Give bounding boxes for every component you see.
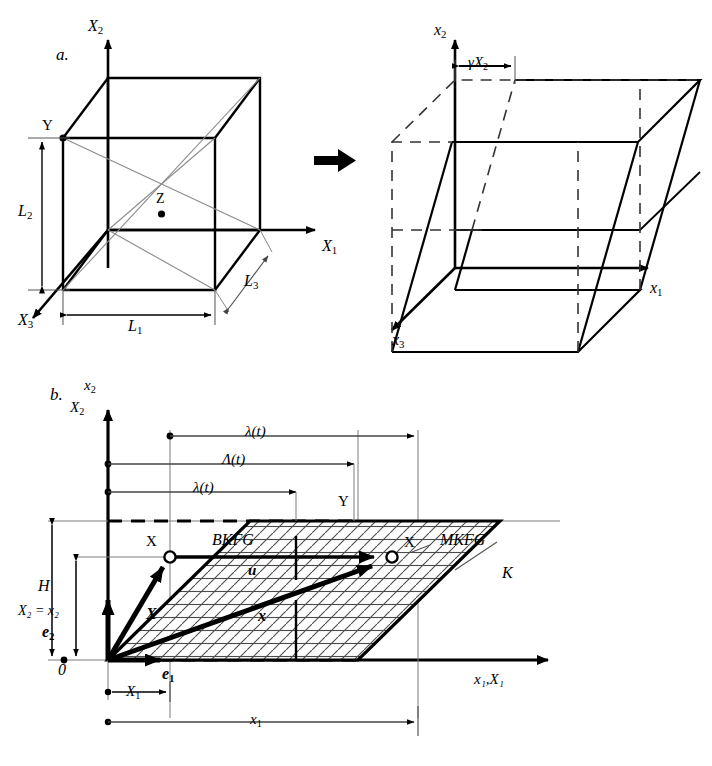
dim-label-Lambda: Λ(t) (222, 452, 245, 467)
dim-label-lambda-2: λ(t) (193, 480, 214, 495)
diagram-vector-layer (0, 0, 712, 766)
panel-a-letter: a. (56, 46, 69, 63)
dim-label-gamma-X2: γX2 (468, 55, 488, 72)
panel-b-letter: b. (50, 386, 63, 403)
point-label-Z: Z (156, 192, 165, 206)
panel-b (48, 410, 560, 736)
panel-b-axis-label-x2: x2 (84, 378, 96, 395)
sheared-top-face (452, 80, 700, 142)
axis-label-x1: x1 (650, 280, 663, 298)
dim-label-X2-equals-x2: X₂ = x₂ (18, 604, 59, 618)
cube-edge-bl (63, 230, 108, 290)
vector-label-e2: e2 (42, 624, 55, 642)
point-label-Y: Y (42, 118, 53, 133)
vector-label-X: X (146, 606, 157, 622)
axis-label-x3: x3 (392, 332, 405, 350)
axis-label-X3: X3 (18, 312, 33, 330)
panel-b-axis-label-x1X1: x₁,X₁ (474, 672, 504, 687)
dim-label-L1: L1 (128, 318, 142, 336)
dim-L3-ext-a (215, 290, 229, 312)
dim-label-lambda-1: λ(t) (245, 424, 266, 439)
dim-label-X1: X1 (126, 684, 140, 701)
figure-root: a. X2 X1 X3 Y Z L2 L1 L3 x2 x1 x3 γX2 b.… (0, 0, 712, 766)
dim-label-L2: L2 (18, 203, 32, 221)
point-label-X-reference: X (146, 534, 157, 549)
sheared-bottom-face (392, 290, 640, 352)
point-X-current-marker (386, 551, 397, 562)
point-Z-marker (158, 210, 165, 217)
sheared-edge-back-left-lower (455, 230, 472, 290)
sheared-mid-face (482, 172, 700, 230)
region-label-BKFG: BKFG (212, 532, 254, 548)
sheared-edge-back-left-dashed (472, 80, 515, 230)
cube-edge-tr (215, 78, 260, 138)
original-cube-dashed-back (392, 80, 515, 142)
dim-L3-ext-b (260, 230, 272, 252)
dim-X1-dot (105, 689, 111, 695)
dim-label-L3: L3 (244, 273, 258, 291)
point-label-X-current: X (404, 535, 415, 550)
region-label-MKFG: MKFG (440, 532, 485, 548)
transform-arrow-icon (314, 149, 356, 172)
dim-label-H: H (38, 578, 50, 594)
axis-label-x2: x2 (434, 22, 447, 40)
panel-a-deformed-body (392, 40, 700, 352)
axis-label-X1: X1 (322, 238, 337, 256)
sheared-edge-front-left (392, 142, 452, 352)
cube-back-face (108, 78, 260, 230)
corner-label-Y: Y (338, 494, 349, 509)
axis-label-X2: X2 (88, 18, 103, 36)
vector-label-u: u (248, 563, 256, 578)
panel-b-axis-label-X2: X2 (70, 400, 84, 417)
point-X-reference-marker (164, 551, 175, 562)
cube-diagonal-3 (108, 230, 215, 290)
vector-label-x: x (258, 608, 266, 624)
cube-front-face (63, 138, 215, 290)
origin-label: 0 (58, 662, 66, 678)
vector-label-e1: e1 (162, 666, 175, 684)
cube-edge-tl (63, 78, 108, 138)
dim-label-x1: x1 (250, 712, 262, 729)
boundary-label-K: K (502, 565, 513, 581)
panel-a-reference-cube (28, 40, 315, 325)
